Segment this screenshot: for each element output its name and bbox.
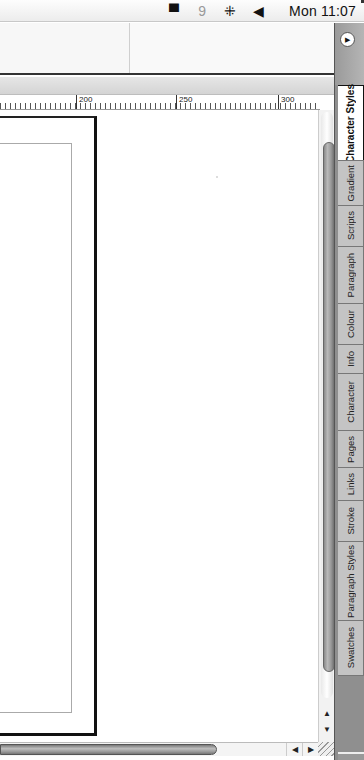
tab-label: Paragraph [345, 253, 356, 297]
ruler-mark-300: 300 [278, 95, 294, 110]
chat-icon[interactable]: ▀ [163, 0, 185, 22]
horizontal-scroll-thumb[interactable] [0, 744, 217, 755]
page-margin-guide [0, 143, 72, 713]
tab-links[interactable]: Links [338, 467, 364, 501]
tab-pages[interactable]: Pages [338, 430, 364, 468]
scroll-right-arrow[interactable]: ▶ [302, 743, 318, 756]
horizontal-ruler[interactable]: 200 250 300 [0, 95, 320, 110]
tab-label: Swatches [345, 627, 356, 668]
document-title-bar[interactable] [0, 77, 334, 95]
panel-menu-button[interactable]: ▶ [340, 32, 355, 47]
resize-grip[interactable] [318, 742, 334, 756]
tab-paragraph-styles[interactable]: Paragraph Styles [338, 541, 364, 621]
pasteboard[interactable] [0, 111, 318, 741]
menu-bar: ▀ 9 ⁜ ◀ Mon 11:07 [0, 0, 364, 22]
tab-label: Colour [345, 310, 356, 338]
tab-label: Info [345, 351, 356, 367]
ruler-mark-250: 250 [176, 95, 192, 110]
pasteboard-speck [216, 176, 218, 178]
document-page[interactable] [0, 116, 97, 736]
horizontal-scrollbar[interactable]: ◀ ▶ [0, 742, 318, 756]
ruler-mark-200: 200 [76, 95, 92, 110]
tab-character[interactable]: Character [338, 373, 364, 431]
scroll-up-arrow[interactable]: ▲ [321, 706, 333, 720]
control-panel-left [0, 23, 129, 73]
control-panel-right [130, 23, 334, 73]
tab-scripts[interactable]: Scripts [338, 205, 364, 247]
nine-icon[interactable]: 9 [191, 0, 213, 22]
input-flag-icon[interactable]: ⁜ [219, 0, 241, 22]
tab-info[interactable]: Info [338, 344, 364, 374]
tab-label: Character Styles [345, 84, 356, 163]
tab-character-styles[interactable]: Character Styles [338, 85, 364, 161]
indesign-window: ▀ 9 ⁜ ◀ Mon 11:07 200 250 300 ▲ ▼ ◀ ▶ [0, 0, 364, 760]
panel-tabs: Character Styles Gradient Scripts Paragr… [338, 85, 364, 675]
ruler-ticks [0, 103, 320, 109]
tab-label: Gradient [345, 165, 356, 201]
vertical-scrollbar[interactable]: ▲ ▼ [318, 110, 334, 742]
tab-gradient[interactable]: Gradient [338, 160, 364, 206]
tab-label: Stroke [345, 507, 356, 534]
tab-label: Links [345, 473, 356, 495]
tab-label: Pages [345, 436, 356, 463]
panel-dock: ▶ Character Styles Gradient Scripts Para… [334, 23, 364, 760]
tab-paragraph[interactable]: Paragraph [338, 246, 364, 304]
horizontal-scroll-arrows: ◀ ▶ [286, 743, 318, 756]
menu-clock[interactable]: Mon 11:07 [289, 0, 356, 22]
panel-dock-footer [338, 752, 364, 760]
scroll-down-arrow[interactable]: ▼ [321, 722, 333, 736]
tab-colour[interactable]: Colour [338, 303, 364, 345]
tab-label: Scripts [345, 211, 356, 240]
tab-label: Paragraph Styles [345, 545, 356, 618]
tab-stroke[interactable]: Stroke [338, 500, 364, 542]
vertical-scroll-track[interactable] [321, 112, 333, 698]
tab-label: Character [345, 381, 356, 423]
control-bar [0, 23, 334, 75]
tab-swatches[interactable]: Swatches [338, 620, 364, 676]
volume-icon[interactable]: ◀ [247, 0, 269, 22]
panel-dock-header: ▶ [335, 23, 364, 85]
scroll-left-arrow[interactable]: ◀ [286, 743, 302, 756]
